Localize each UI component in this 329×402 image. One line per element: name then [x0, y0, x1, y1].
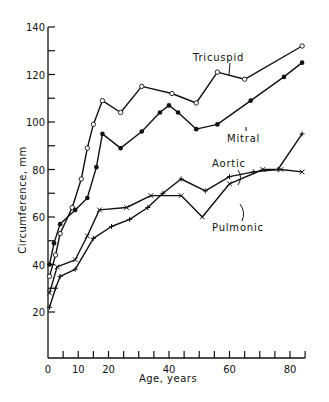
- x-tick-label: 80: [284, 364, 297, 375]
- label-mitral: Mitral: [227, 133, 260, 144]
- marker-filled-circle: [47, 262, 52, 267]
- y-tick-label: 140: [26, 22, 45, 33]
- marker-filled-circle: [58, 222, 63, 227]
- marker-filled-circle: [176, 110, 181, 115]
- label-tricuspid: Tricuspid: [192, 52, 244, 63]
- label-aortic: Aortic: [212, 158, 246, 169]
- y-axis-title: Circumference, mm: [17, 146, 28, 253]
- marker-open-circle: [79, 177, 83, 181]
- marker-filled-circle: [118, 146, 123, 151]
- marker-filled-circle: [100, 132, 105, 137]
- marker-open-circle: [140, 84, 144, 88]
- y-tick-label: 60: [32, 212, 45, 223]
- marker-filled-circle: [52, 241, 57, 246]
- x-tick-label: 20: [102, 364, 115, 375]
- marker-open-circle: [58, 231, 62, 235]
- marker-open-circle: [242, 77, 246, 81]
- y-tick-label: 120: [26, 70, 45, 81]
- marker-filled-circle: [158, 110, 163, 115]
- series-labels: Tricuspid Mitral Aortic Pulmonic: [192, 52, 264, 233]
- label-pulmonic: Pulmonic: [212, 222, 264, 233]
- series-tricuspid: [47, 44, 304, 279]
- marker-filled-circle: [94, 165, 99, 170]
- marker-filled-circle: [300, 60, 305, 65]
- x-tick-label: 60: [223, 364, 236, 375]
- marker-open-circle: [194, 101, 198, 105]
- marker-filled-circle: [215, 122, 220, 127]
- circumference-chart: 2040608010012014001020406080 Tricuspid M…: [0, 0, 329, 402]
- series-pulmonic: [47, 167, 304, 295]
- marker-open-circle: [300, 44, 304, 48]
- marker-open-circle: [85, 146, 89, 150]
- x-tick-label: 10: [72, 364, 85, 375]
- x-tick-label: 0: [45, 364, 51, 375]
- series-mitral: [47, 60, 304, 266]
- marker-open-circle: [170, 91, 174, 95]
- marker-plus: [53, 286, 58, 291]
- marker-open-circle: [91, 122, 95, 126]
- marker-open-circle: [53, 253, 57, 257]
- marker-filled-circle: [194, 127, 199, 132]
- y-tick-label: 20: [32, 307, 45, 318]
- y-tick-label: 80: [32, 165, 45, 176]
- marker-open-circle: [100, 98, 104, 102]
- y-tick-label: 100: [26, 117, 45, 128]
- marker-cross: [200, 215, 205, 220]
- series-lines: [47, 44, 305, 310]
- marker-filled-circle: [282, 75, 287, 80]
- marker-open-circle: [118, 110, 122, 114]
- axes: 2040608010012014001020406080: [26, 22, 305, 375]
- marker-open-circle: [215, 70, 219, 74]
- marker-filled-circle: [248, 98, 253, 103]
- x-axis-title: Age, years: [139, 373, 197, 384]
- marker-open-circle: [47, 274, 51, 278]
- y-tick-label: 40: [32, 260, 45, 271]
- marker-filled-circle: [73, 208, 78, 213]
- marker-filled-circle: [167, 103, 172, 108]
- marker-filled-circle: [139, 129, 144, 134]
- marker-plus: [58, 274, 63, 279]
- marker-filled-circle: [85, 196, 90, 201]
